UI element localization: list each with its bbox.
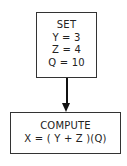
set-z-assignment: Z = 4 [37,44,96,57]
set-y-assignment: Y = 3 [37,32,96,45]
compute-box: COMPUTE X = ( Y + Z )(Q) [10,112,121,154]
compute-formula: X = ( Y + Z )(Q) [11,133,120,146]
compute-title: COMPUTE [11,120,120,133]
set-q-assignment: Q = 10 [37,57,96,70]
arrow-down-icon [62,103,70,112]
set-box: SET Y = 3 Z = 4 Q = 10 [36,12,97,78]
set-title: SET [37,19,96,32]
flow-arrow-shaft [66,78,69,105]
